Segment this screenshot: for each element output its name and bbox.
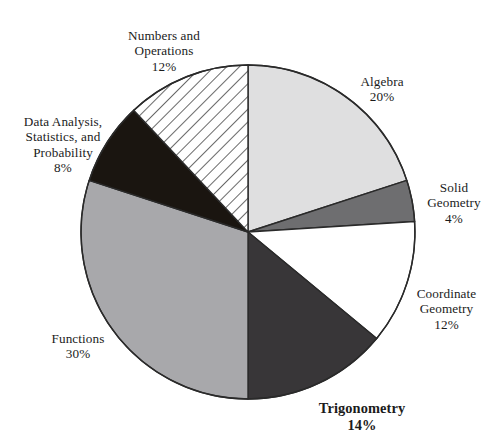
slice-label-text: Solid Geometry (427, 180, 481, 211)
slice-percent-text: 14% (296, 417, 428, 435)
slice-label-algebra: Algebra 20% (318, 58, 446, 120)
slice-label-numbers-and-operations: Numbers and Operations 12% (96, 12, 232, 90)
slice-percent-text: 8% (2, 160, 124, 176)
slice-label-solid-geometry: Solid Geometry 4% (414, 164, 494, 242)
slice-label-data-analysis: Data Analysis, Statistics, and Probabili… (2, 98, 124, 192)
slice-label-coordinate-geometry: Coordinate Geometry 12% (396, 270, 497, 348)
slice-label-text: Data Analysis, Statistics, and Probabili… (24, 114, 102, 160)
slice-percent-text: 12% (396, 317, 497, 333)
slice-label-trigonometry: Trigonometry 14% (296, 382, 428, 439)
slice-label-text: Coordinate Geometry (417, 286, 477, 317)
slice-label-text: Numbers and Operations (128, 28, 200, 59)
slice-label-text: Algebra (360, 74, 403, 89)
slice-percent-text: 20% (318, 89, 446, 105)
pie-chart: Numbers and Operations 12% Algebra 20% S… (0, 0, 497, 439)
slice-label-text: Functions (52, 331, 105, 346)
slice-percent-text: 30% (22, 346, 134, 362)
slice-percent-text: 4% (414, 211, 494, 227)
slice-label-functions: Functions 30% (22, 315, 134, 377)
slice-label-text: Trigonometry (319, 400, 405, 416)
slice-percent-text: 12% (96, 59, 232, 75)
